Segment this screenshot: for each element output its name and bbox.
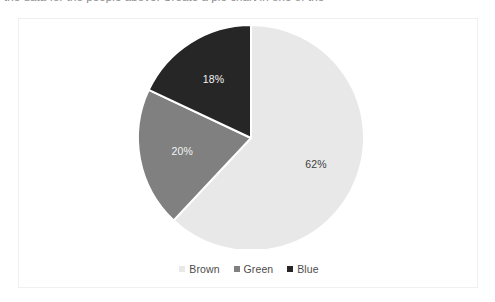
legend-swatch-blue (287, 266, 293, 272)
legend-swatch-green (234, 266, 240, 272)
cutoff-header-strip: the data for the people above. Create a … (0, 0, 495, 9)
pie-chart-plot-area[interactable]: 62%20%18% (19, 19, 479, 249)
pie-chart-svg (19, 19, 479, 249)
legend-item-brown[interactable]: Brown (179, 264, 219, 275)
legend-label-blue: Blue (297, 264, 318, 275)
chart-frame[interactable]: 62%20%18% BrownGreenBlue (18, 18, 478, 288)
pie-data-label-brown: 62% (305, 158, 327, 170)
pie-data-label-blue: 18% (203, 73, 225, 85)
chart-legend[interactable]: BrownGreenBlue (19, 264, 479, 275)
cutoff-header-text: the data for the people above. Create a … (4, 0, 324, 3)
legend-item-blue[interactable]: Blue (287, 264, 318, 275)
legend-label-brown: Brown (189, 264, 219, 275)
pie-data-label-green: 20% (171, 145, 193, 157)
pie-slice-group (138, 25, 364, 249)
legend-item-green[interactable]: Green (234, 264, 274, 275)
legend-swatch-brown (179, 266, 185, 272)
legend-label-green: Green (244, 264, 274, 275)
